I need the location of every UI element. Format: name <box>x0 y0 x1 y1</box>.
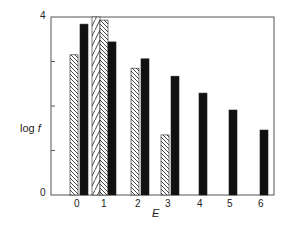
bars-group <box>70 17 268 195</box>
bar-E2-hatch-back <box>131 68 139 195</box>
bar-E3-hatch-back <box>161 135 169 195</box>
bar-E0-hatch-back <box>70 55 78 195</box>
bar-E1-hatch-back <box>100 20 108 195</box>
y-axis-ticks <box>51 62 55 151</box>
bar-E1-hatch-forward <box>92 17 100 195</box>
x-tick-4: 4 <box>197 198 203 209</box>
bar-E2-solid <box>141 59 149 195</box>
x-tick-5: 5 <box>227 198 233 209</box>
bar-E3-solid <box>171 76 179 195</box>
y-tick-0: 0 <box>40 187 46 198</box>
x-axis-label: E <box>152 207 159 219</box>
bar-E1-solid <box>108 42 116 195</box>
x-tick-1: 1 <box>101 198 107 209</box>
y-axis-label: log f <box>20 122 41 134</box>
y-tick-4: 4 <box>40 10 46 21</box>
bar-E5-solid <box>229 110 237 195</box>
bar-E4-solid <box>199 93 207 195</box>
x-tick-3: 3 <box>165 198 171 209</box>
bar-E6-solid <box>260 130 268 195</box>
bar-E0-solid <box>80 24 88 195</box>
x-tick-2: 2 <box>135 198 141 209</box>
x-tick-6: 6 <box>258 198 264 209</box>
x-tick-0: 0 <box>74 198 80 209</box>
